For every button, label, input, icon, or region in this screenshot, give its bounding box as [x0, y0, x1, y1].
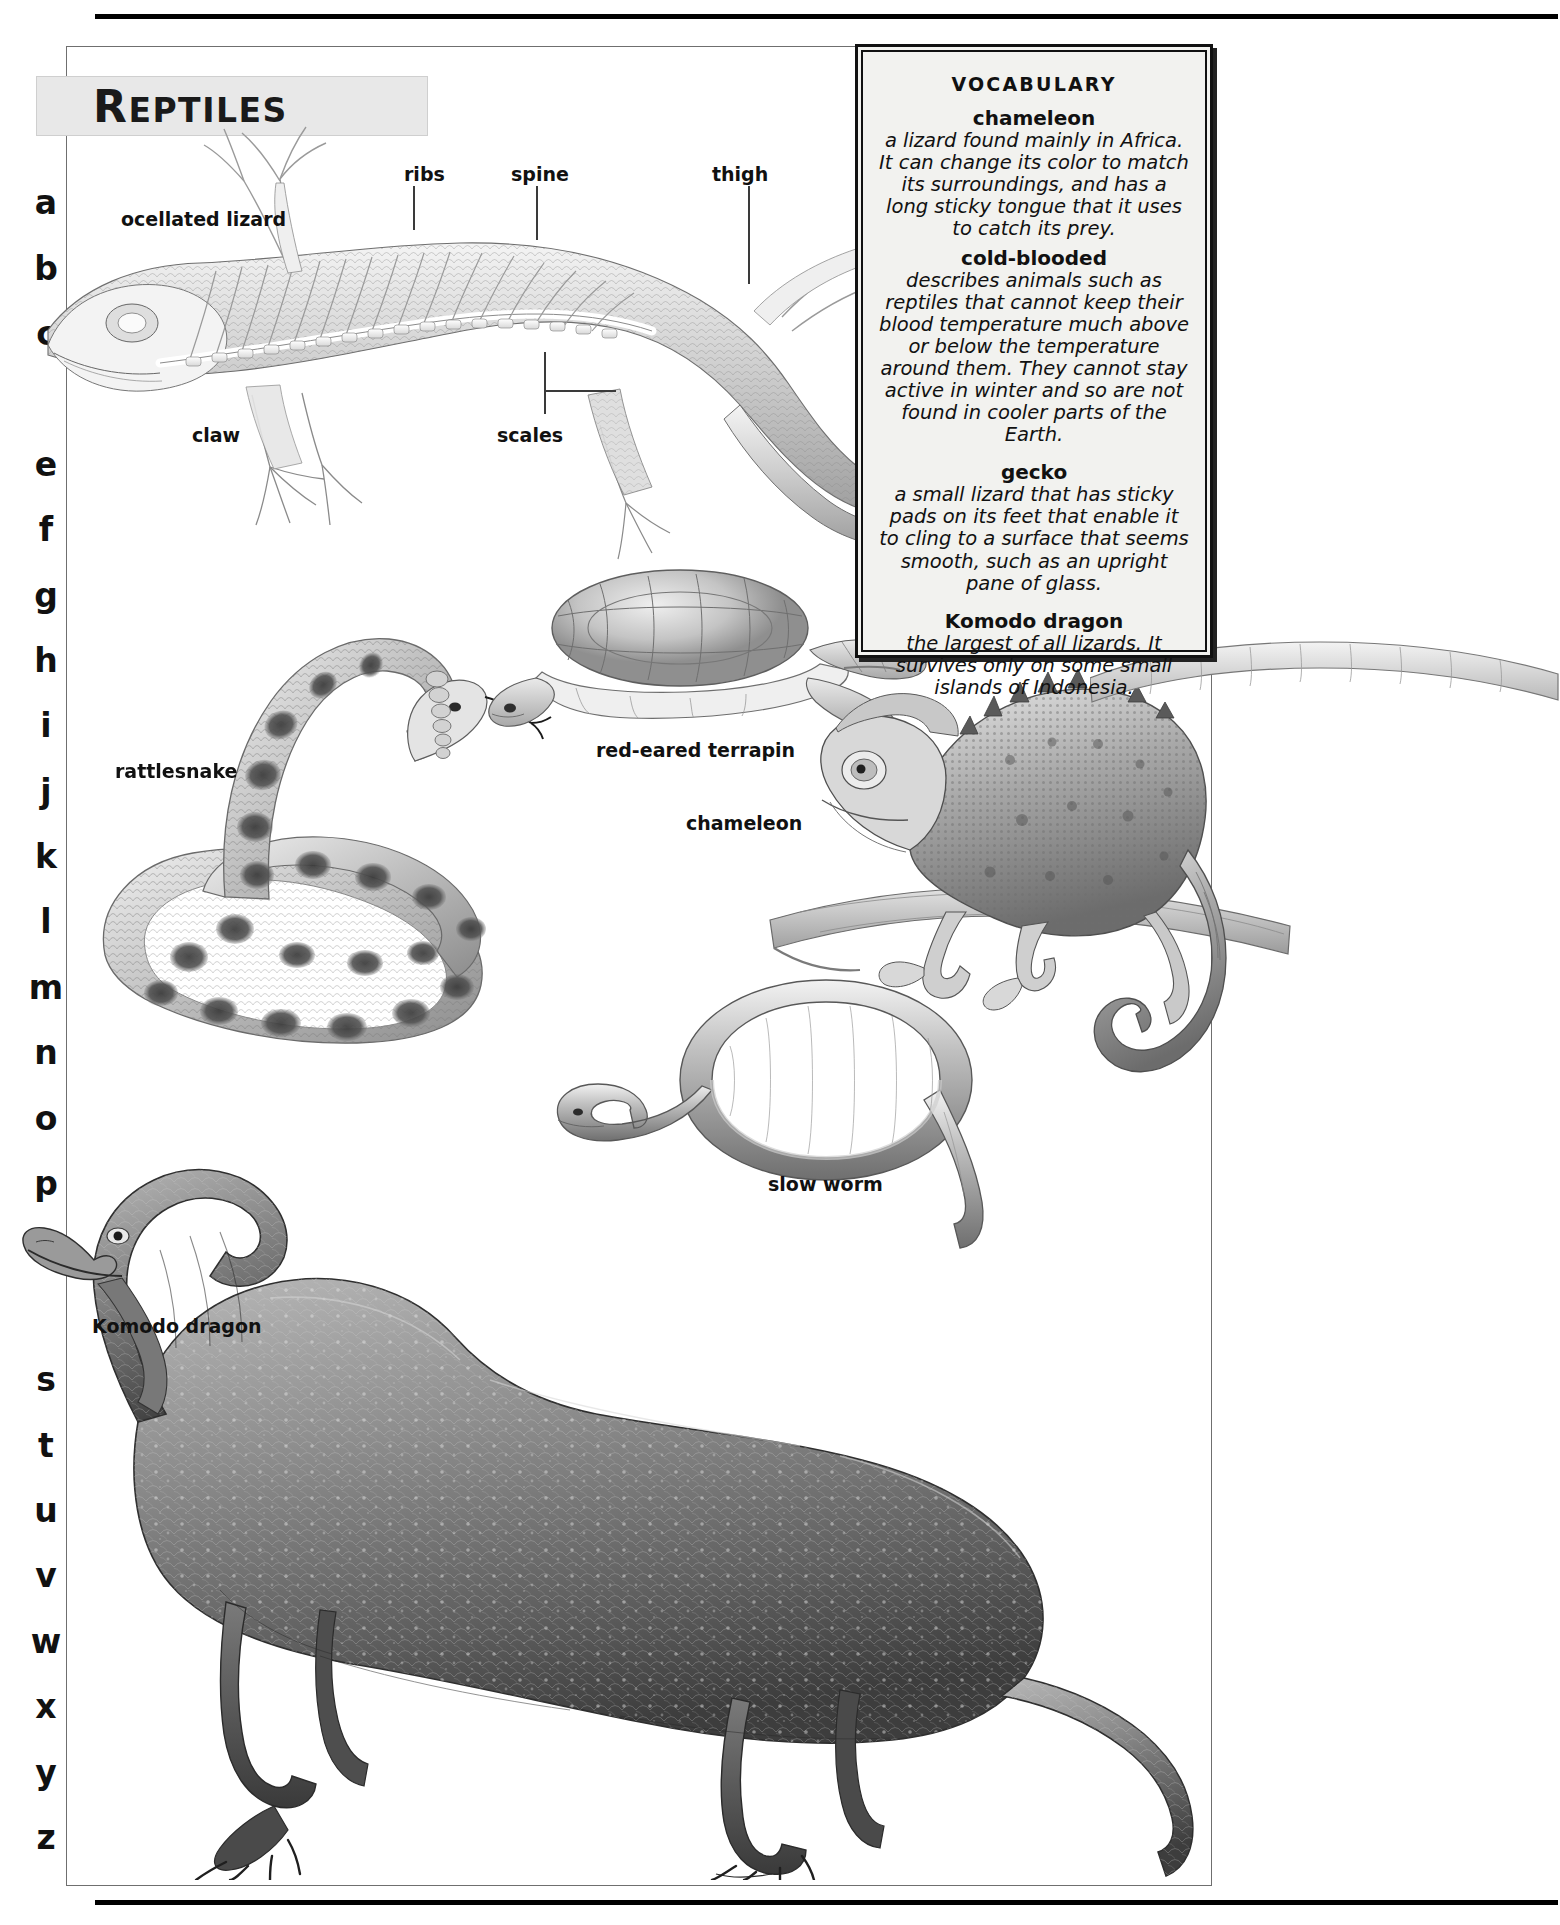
vocabulary-entry-cold-blooded: cold-blooded describes animals such as r… [878, 247, 1190, 446]
vocabulary-term: chameleon [878, 107, 1190, 130]
leader-ribs [413, 186, 415, 230]
label-chameleon: chameleon [686, 812, 802, 834]
leader-scales-horizontal [544, 390, 616, 392]
alphabet-letter-h[interactable]: h [26, 628, 66, 693]
label-ocellated-lizard: ocellated lizard [121, 208, 286, 230]
komodo-dragon-illustration [20, 1050, 1210, 1880]
label-ribs: ribs [404, 163, 445, 185]
vocabulary-entry-komodo-dragon: Komodo dragon the largest of all lizards… [878, 610, 1190, 699]
page-rule-top [95, 14, 1558, 19]
vocabulary-definition: describes animals such as reptiles that … [878, 270, 1190, 446]
label-red-eared-terrapin: red-eared terrapin [596, 739, 795, 761]
leader-thigh [748, 186, 750, 284]
alphabet-letter-m[interactable]: m [26, 955, 66, 1020]
label-rattlesnake: rattlesnake [115, 760, 237, 782]
vocabulary-term: Komodo dragon [878, 610, 1190, 633]
leader-scales-vertical [544, 352, 546, 414]
alphabet-letter-i[interactable]: i [26, 693, 66, 758]
label-scales: scales [497, 424, 563, 446]
label-claw: claw [192, 424, 240, 446]
vocabulary-entry-chameleon: chameleon a lizard found mainly in Afric… [878, 107, 1190, 240]
label-komodo-dragon: Komodo dragon [92, 1315, 262, 1337]
vocabulary-term: cold-blooded [878, 247, 1190, 270]
leader-spine [536, 186, 538, 240]
label-thigh: thigh [712, 163, 768, 185]
vocabulary-heading: VOCABULARY [878, 73, 1190, 95]
vocabulary-definition: the largest of all lizards. It survives … [878, 633, 1190, 699]
alphabet-letter-j[interactable]: j [26, 759, 66, 824]
label-slow-worm: slow worm [768, 1173, 883, 1195]
vocabulary-entry-gecko: gecko a small lizard that has sticky pad… [878, 461, 1190, 594]
vocabulary-box: VOCABULARY chameleon a lizard found main… [855, 44, 1213, 658]
label-spine: spine [511, 163, 569, 185]
alphabet-letter-k[interactable]: k [26, 824, 66, 889]
vocabulary-term: gecko [878, 461, 1190, 484]
page-rule-bottom [95, 1900, 1558, 1905]
vocabulary-definition: a lizard found mainly in Africa. It can … [878, 130, 1190, 240]
vocabulary-definition: a small lizard that has sticky pads on i… [878, 484, 1190, 594]
alphabet-letter-l[interactable]: l [26, 889, 66, 954]
ocellated-lizard-illustration [40, 95, 950, 575]
